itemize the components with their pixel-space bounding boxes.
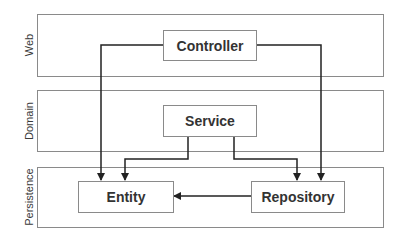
- layer-label-domain: Domain: [22, 81, 36, 161]
- node-repository: Repository: [251, 181, 345, 213]
- node-entity: Entity: [78, 181, 174, 213]
- node-entity-label: Entity: [107, 189, 146, 205]
- node-repository-label: Repository: [261, 189, 334, 205]
- node-service: Service: [163, 105, 257, 137]
- layer-label-persistence: Persistence: [22, 157, 36, 237]
- node-service-label: Service: [185, 113, 235, 129]
- node-controller-label: Controller: [177, 38, 244, 54]
- node-controller: Controller: [163, 30, 257, 61]
- layer-label-web: Web: [22, 5, 36, 85]
